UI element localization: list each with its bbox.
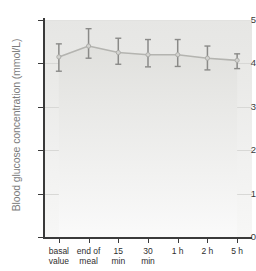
data-point-0 — [57, 55, 61, 59]
data-point-5 — [205, 56, 209, 60]
data-point-4 — [176, 53, 180, 57]
series-area — [59, 46, 237, 237]
data-point-6 — [235, 58, 239, 62]
blood-glucose-chart: Blood glucose concentration (mmol/L) 543… — [0, 0, 256, 271]
series-svg — [0, 0, 256, 271]
data-point-1 — [86, 44, 90, 48]
data-point-2 — [116, 50, 120, 54]
data-point-3 — [146, 53, 150, 57]
